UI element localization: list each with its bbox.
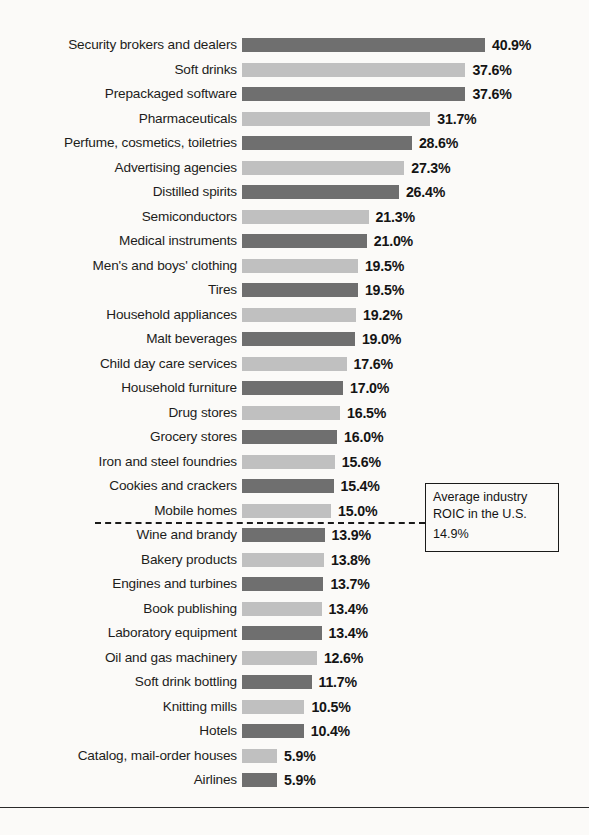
bar-track: 21.0% — [237, 229, 589, 254]
bar-category-label: Security brokers and dealers — [0, 38, 237, 52]
table-row: Airlines5.9% — [0, 768, 589, 793]
bar-segment — [242, 700, 304, 714]
bar-category-label: Laboratory equipment — [0, 626, 237, 640]
table-row: Iron and steel foundries15.6% — [0, 450, 589, 475]
table-row: Security brokers and dealers40.9% — [0, 33, 589, 58]
bar-value-label: 19.5% — [365, 259, 404, 273]
table-row: Drug stores16.5% — [0, 401, 589, 426]
bar-value-label: 40.9% — [492, 38, 531, 52]
table-row: Advertising agencies27.3% — [0, 156, 589, 181]
bar-track: 27.3% — [237, 156, 589, 181]
bar-segment — [242, 161, 404, 175]
bar-value-label: 11.7% — [319, 675, 357, 689]
bar-value-label: 10.5% — [311, 700, 350, 714]
bar-value-label: 13.4% — [329, 626, 368, 640]
table-row: Grocery stores16.0% — [0, 425, 589, 450]
bar-value-label: 16.0% — [344, 430, 383, 444]
bar-value-label: 19.2% — [363, 308, 402, 322]
bar-value-label: 15.4% — [341, 479, 380, 493]
bar-segment — [242, 234, 367, 248]
bar-value-label: 28.6% — [419, 136, 458, 150]
bar-category-label: Oil and gas machinery — [0, 651, 237, 665]
table-row: Tires19.5% — [0, 278, 589, 303]
table-row: Engines and turbines13.7% — [0, 572, 589, 597]
bar-category-label: Soft drinks — [0, 63, 237, 77]
table-row: Men's and boys' clothing19.5% — [0, 254, 589, 279]
table-row: Perfume, cosmetics, toiletries28.6% — [0, 131, 589, 156]
bar-value-label: 27.3% — [411, 161, 450, 175]
callout-line-1: Average industry — [433, 489, 551, 506]
bar-segment — [242, 455, 335, 469]
bar-track: 13.4% — [237, 597, 589, 622]
bar-segment — [242, 430, 337, 444]
bar-segment — [242, 87, 465, 101]
bar-value-label: 5.9% — [284, 773, 316, 787]
bar-category-label: Medical instruments — [0, 234, 237, 248]
bar-segment — [242, 332, 355, 346]
bar-value-label: 15.6% — [342, 455, 381, 469]
bar-segment — [242, 675, 312, 689]
table-row: Book publishing13.4% — [0, 597, 589, 622]
bar-segment — [242, 283, 358, 297]
bar-track: 5.9% — [237, 744, 589, 769]
bar-segment — [242, 381, 343, 395]
callout-value: 14.9% — [433, 526, 551, 543]
table-row: Laboratory equipment13.4% — [0, 621, 589, 646]
bar-category-label: Drug stores — [0, 406, 237, 420]
bar-category-label: Cookies and crackers — [0, 479, 237, 493]
bar-value-label: 19.0% — [362, 332, 401, 346]
bar-value-label: 21.3% — [376, 210, 415, 224]
bar-value-label: 13.9% — [332, 528, 371, 542]
bar-segment — [242, 308, 356, 322]
bar-track: 21.3% — [237, 205, 589, 230]
bar-category-label: Distilled spirits — [0, 185, 237, 199]
bar-track: 28.6% — [237, 131, 589, 156]
table-row: Knitting mills10.5% — [0, 695, 589, 720]
callout-line-2: ROIC in the U.S. — [433, 506, 551, 523]
table-row: Child day care services17.6% — [0, 352, 589, 377]
bar-category-label: Hotels — [0, 724, 237, 738]
bar-value-label: 5.9% — [284, 749, 316, 763]
average-reference-line — [95, 522, 425, 524]
bar-category-label: Household furniture — [0, 381, 237, 395]
table-row: Oil and gas machinery12.6% — [0, 646, 589, 671]
table-row: Prepackaged software37.6% — [0, 82, 589, 107]
bar-category-label: Perfume, cosmetics, toiletries — [0, 136, 237, 150]
bar-segment — [242, 553, 324, 567]
table-row: Soft drink bottling11.7% — [0, 670, 589, 695]
bar-track: 37.6% — [237, 82, 589, 107]
bar-value-label: 31.7% — [437, 112, 476, 126]
bar-value-label: 13.7% — [330, 577, 369, 591]
bar-segment — [242, 406, 340, 420]
bar-segment — [242, 749, 277, 763]
bar-value-label: 15.0% — [338, 504, 377, 518]
bar-category-label: Knitting mills — [0, 700, 237, 714]
bar-category-label: Wine and brandy — [0, 528, 237, 542]
bar-segment — [242, 651, 317, 665]
bar-segment — [242, 479, 334, 493]
bar-track: 19.5% — [237, 278, 589, 303]
bar-category-label: Prepackaged software — [0, 87, 237, 101]
bar-track: 19.2% — [237, 303, 589, 328]
bar-category-label: Pharmaceuticals — [0, 112, 237, 126]
bar-segment — [242, 528, 325, 542]
bar-track: 10.4% — [237, 719, 589, 744]
bar-track: 16.5% — [237, 401, 589, 426]
bar-value-label: 12.6% — [324, 651, 363, 665]
bar-track: 26.4% — [237, 180, 589, 205]
table-row: Household appliances19.2% — [0, 303, 589, 328]
bar-segment — [242, 602, 322, 616]
bar-track: 15.6% — [237, 450, 589, 475]
bar-value-label: 13.8% — [331, 553, 370, 567]
bar-track: 13.4% — [237, 621, 589, 646]
bar-category-label: Catalog, mail-order houses — [0, 749, 237, 763]
bar-category-label: Soft drink bottling — [0, 675, 237, 689]
bar-segment — [242, 577, 323, 591]
table-row: Soft drinks37.6% — [0, 58, 589, 83]
bar-segment — [242, 38, 485, 52]
bar-value-label: 37.6% — [472, 63, 511, 77]
bar-segment — [242, 773, 277, 787]
bar-value-label: 37.6% — [472, 87, 511, 101]
bar-category-label: Tires — [0, 283, 237, 297]
bar-segment — [242, 259, 358, 273]
